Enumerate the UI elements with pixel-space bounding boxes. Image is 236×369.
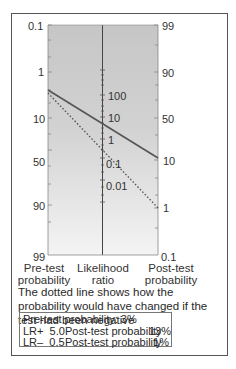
posttest-axis-title: Post-test probability [140,262,202,286]
lr-axis-title: Likelihood ratio [72,262,134,286]
posttest-tick-label: 1 [163,202,169,214]
lr-tick-label: 0.1 [106,158,121,170]
lr-tick-label: 1 [108,134,114,146]
pretest-axis-title: Pre-test probability [14,262,74,286]
summary-box: Pre-test probability: 3% LR+ 5.0 Post-te… [19,312,172,347]
posttest-tick-label: 99 [162,20,174,32]
posttest-tick-label: 90 [162,67,174,79]
pretest-tick-label: 1 [38,66,44,78]
lr-tick-label: 100 [108,90,126,102]
posttest-value: 1% [149,337,169,349]
summary-row: LR– 0.5 Post-test probability 1% [23,337,171,349]
pretest-tick-label: 10 [33,113,45,125]
pretest-tick-label: 0.1 [28,20,43,32]
pretest-summary: Pre-test probability: 3% [23,314,171,326]
pretest-tick-label: 90 [33,200,45,212]
posttest-label: Post-test probability [65,337,149,349]
lr-tick-label: 0.01 [106,180,127,192]
posttest-tick-label: 50 [162,113,174,125]
lr-tick-label: 10 [108,112,120,124]
lr-value: LR– 0.5 [23,337,65,349]
posttest-tick-label: 10 [163,155,175,167]
pretest-tick-label: 50 [33,156,45,168]
